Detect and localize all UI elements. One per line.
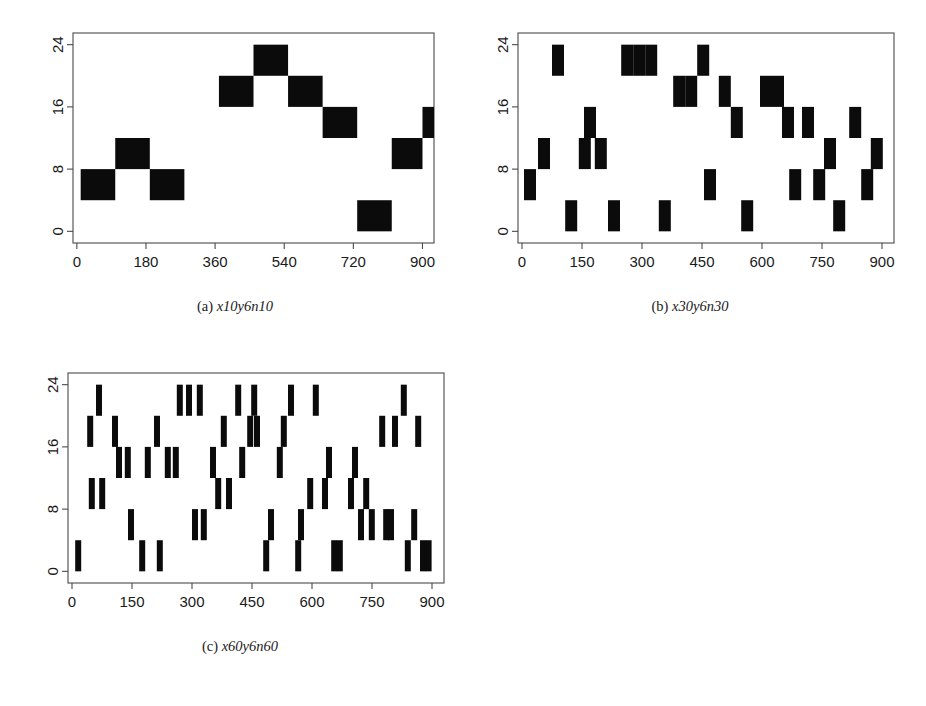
data-block <box>154 416 160 447</box>
data-block <box>673 76 685 107</box>
data-block <box>633 45 645 76</box>
data-block <box>337 540 343 571</box>
data-block <box>247 416 253 447</box>
y-tick-label-8: 8 <box>49 165 66 173</box>
data-block <box>579 138 591 169</box>
data-block <box>75 540 81 571</box>
data-block <box>719 76 731 107</box>
data-block <box>307 478 313 509</box>
y-tick-label-16: 16 <box>49 99 66 116</box>
block-group <box>75 385 431 572</box>
block-group <box>524 45 883 232</box>
data-block <box>685 76 697 107</box>
x-tick-label-900: 900 <box>419 593 444 610</box>
data-block <box>357 200 392 231</box>
data-block <box>268 509 274 540</box>
panel-a-caption-index: (a) <box>197 298 213 314</box>
data-block <box>824 138 836 169</box>
data-block <box>139 540 145 571</box>
x-tick-label-300: 300 <box>629 253 654 270</box>
panel-c-caption-name: x60y6n60 <box>222 638 278 654</box>
data-block <box>295 540 301 571</box>
data-block <box>201 509 207 540</box>
data-block <box>645 45 657 76</box>
data-block <box>731 107 743 138</box>
data-block <box>128 509 134 540</box>
panel-b-plot: 0150300450600750900081624 <box>470 20 910 295</box>
data-block <box>415 416 421 447</box>
data-block <box>145 447 151 478</box>
data-block <box>326 447 332 478</box>
y-tick-label-24: 24 <box>494 36 511 53</box>
block-group <box>81 45 434 232</box>
data-block <box>221 416 227 447</box>
data-block <box>150 169 185 200</box>
data-block <box>177 385 183 416</box>
x-tick-label-300: 300 <box>179 593 204 610</box>
panel-a-caption-name: x10y6n10 <box>217 298 273 314</box>
x-tick-label-900: 900 <box>410 253 435 270</box>
data-block <box>219 76 254 107</box>
x-tick-label-0: 0 <box>73 253 81 270</box>
data-block <box>782 107 794 138</box>
data-block <box>411 509 417 540</box>
data-block <box>157 540 163 571</box>
panel-a-plot: 0180360540720900081624 <box>20 20 450 295</box>
data-block <box>348 478 354 509</box>
data-block <box>116 447 122 478</box>
y-tick-label-8: 8 <box>44 505 61 513</box>
data-block <box>115 138 150 169</box>
data-block <box>802 107 814 138</box>
data-block <box>87 416 93 447</box>
x-tick-label-0: 0 <box>518 253 526 270</box>
y-tick-label-24: 24 <box>49 36 66 53</box>
data-block <box>552 45 564 76</box>
data-block <box>239 447 245 478</box>
data-block <box>565 200 577 231</box>
figure-root: 0180360540720900081624 (a) x10y6n10 0150… <box>0 0 926 706</box>
panel-c-caption-index: (c) <box>202 638 218 654</box>
y-tick-label-16: 16 <box>494 99 511 116</box>
data-block <box>99 478 105 509</box>
x-tick-label-600: 600 <box>749 253 774 270</box>
x-tick-label-150: 150 <box>119 593 144 610</box>
data-block <box>621 45 633 76</box>
data-block <box>405 540 411 571</box>
data-block <box>215 478 221 509</box>
data-block <box>608 200 620 231</box>
x-tick-label-540: 540 <box>272 253 297 270</box>
data-block <box>813 169 825 200</box>
panel-b-caption-index: (b) <box>652 298 669 314</box>
x-tick-label-150: 150 <box>569 253 594 270</box>
data-block <box>173 447 179 478</box>
data-block <box>165 447 171 478</box>
x-tick-label-180: 180 <box>133 253 158 270</box>
data-block <box>659 200 671 231</box>
data-block <box>772 76 784 107</box>
data-block <box>392 416 398 447</box>
data-block <box>584 107 596 138</box>
data-block <box>392 138 423 169</box>
panel-c-plot: 0150300450600750900081624 <box>20 360 460 635</box>
data-block <box>861 169 873 200</box>
panel-c: 0150300450600750900081624 (c) x60y6n60 <box>20 360 460 670</box>
data-block <box>352 447 358 478</box>
data-block <box>363 478 369 509</box>
x-tick-label-0: 0 <box>68 593 76 610</box>
data-block <box>125 447 131 478</box>
data-block <box>538 138 550 169</box>
panel-b-caption-name: x30y6n30 <box>672 298 728 314</box>
x-tick-label-360: 360 <box>203 253 228 270</box>
data-block <box>277 447 283 478</box>
data-block <box>251 385 257 416</box>
data-block <box>263 540 269 571</box>
data-block <box>322 478 328 509</box>
data-block <box>254 416 260 447</box>
y-tick-label-0: 0 <box>44 567 61 575</box>
y-tick-label-0: 0 <box>49 227 66 235</box>
data-block <box>288 385 294 416</box>
x-tick-label-750: 750 <box>359 593 384 610</box>
data-block <box>426 540 432 571</box>
data-block <box>323 107 358 138</box>
data-block <box>197 385 203 416</box>
